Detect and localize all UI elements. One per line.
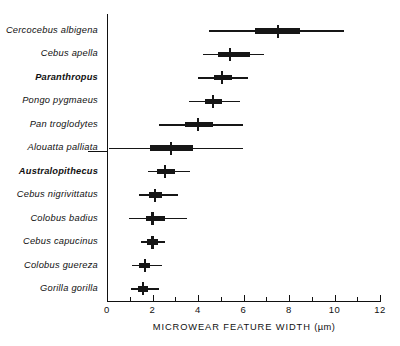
x-tick-major (335, 295, 336, 302)
mean-marker (142, 282, 144, 295)
x-tick-label: 8 (277, 304, 301, 315)
x-tick-label: 2 (141, 304, 165, 315)
x-tick-minor (130, 297, 131, 302)
standard-deviation-box (185, 122, 212, 127)
standard-deviation-box (150, 145, 193, 150)
x-tick-major (153, 295, 154, 302)
x-tick-major (107, 295, 108, 302)
x-axis-title-unit: (µm) (314, 322, 335, 332)
x-tick-label: 12 (368, 304, 392, 315)
mean-marker (221, 71, 223, 84)
data-row (0, 282, 400, 296)
standard-deviation-box (157, 169, 175, 174)
x-tick-minor (357, 297, 358, 302)
data-row (0, 118, 400, 132)
mean-marker (144, 259, 146, 272)
standard-deviation-box (214, 75, 232, 80)
data-row (0, 235, 400, 249)
mean-marker (170, 142, 172, 155)
mean-marker (229, 48, 231, 61)
data-row (0, 212, 400, 226)
x-tick-label: 6 (232, 304, 256, 315)
mean-marker (151, 212, 153, 225)
data-row (0, 47, 400, 61)
x-tick-label: 0 (95, 304, 119, 315)
plot-area: 024681012 (0, 0, 400, 346)
data-row (0, 94, 400, 108)
microwear-feature-width-chart: Cercocebus albigenaCebus apellaParanthro… (0, 0, 400, 346)
x-tick-major (198, 295, 199, 302)
mean-marker (197, 118, 199, 131)
x-tick-label: 4 (186, 304, 210, 315)
mean-marker (154, 189, 156, 202)
x-axis-title: MICROWEAR FEATURE WIDTH (µm) (107, 322, 381, 332)
x-tick-major (289, 295, 290, 302)
x-tick-minor (312, 297, 313, 302)
mean-marker (164, 165, 166, 178)
x-axis-title-main: MICROWEAR FEATURE WIDTH (153, 322, 311, 332)
data-row (0, 188, 400, 202)
x-tick-major (244, 295, 245, 302)
x-tick-minor (266, 297, 267, 302)
standard-deviation-box (146, 216, 165, 221)
data-row (0, 141, 400, 155)
x-tick-minor (221, 297, 222, 302)
standard-deviation-box (218, 52, 250, 57)
data-row (0, 71, 400, 85)
x-tick-minor (175, 297, 176, 302)
mean-marker (277, 25, 279, 38)
data-row (0, 165, 400, 179)
x-tick-label: 10 (323, 304, 347, 315)
x-tick-major (380, 295, 381, 302)
mean-marker (212, 95, 214, 108)
data-row (0, 259, 400, 273)
data-row (0, 24, 400, 38)
mean-marker (151, 236, 153, 249)
